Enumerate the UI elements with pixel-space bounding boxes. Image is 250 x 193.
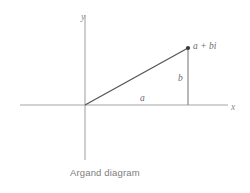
complex-point-marker (186, 46, 190, 50)
argand-diagram-canvas: y x a + bi a b (0, 0, 250, 193)
complex-vector-line (85, 48, 188, 105)
real-part-label-a: a (140, 93, 145, 103)
point-label-a-plus-bi: a + bi (193, 41, 217, 51)
imaginary-part-label-b: b (178, 73, 183, 83)
figure-caption: Argand diagram (70, 167, 140, 178)
y-axis-label: y (80, 12, 86, 22)
argand-diagram-figure: y x a + bi a b Argand diagram (0, 0, 250, 193)
x-axis-label: x (230, 102, 236, 112)
